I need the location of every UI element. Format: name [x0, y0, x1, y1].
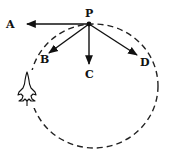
label-c: C	[85, 68, 94, 81]
label-b: B	[40, 53, 49, 66]
point-p	[87, 22, 92, 27]
label-p: P	[85, 7, 93, 20]
label-a: A	[5, 18, 15, 31]
label-d: D	[140, 56, 150, 69]
loop-path	[30, 24, 158, 148]
vector-d	[89, 24, 137, 55]
diagram-canvas: P A B C D	[0, 0, 170, 160]
